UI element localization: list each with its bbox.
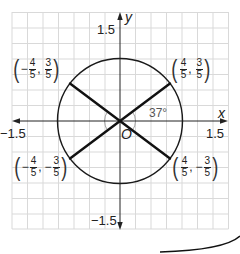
angle-label: 37° bbox=[149, 106, 167, 120]
x-sign: − bbox=[22, 160, 29, 174]
y-fraction: 35 bbox=[45, 58, 53, 80]
point-label-q3: ( − 45 , − 35 ) bbox=[13, 154, 69, 180]
x-axis-label: x bbox=[218, 106, 225, 120]
page-curl bbox=[160, 236, 240, 252]
close-paren: ) bbox=[61, 154, 67, 180]
y-sign: − bbox=[45, 160, 52, 174]
origin-label: O bbox=[121, 127, 132, 141]
coordinate-plane bbox=[0, 0, 240, 254]
open-paren: ( bbox=[13, 56, 19, 82]
close-paren: ) bbox=[204, 56, 210, 82]
y-fraction: 35 bbox=[53, 156, 61, 178]
y-sign: − bbox=[196, 160, 203, 174]
close-paren: ) bbox=[53, 56, 59, 82]
x-fraction: 45 bbox=[29, 58, 37, 80]
arrow-left-icon bbox=[12, 118, 20, 123]
y-fraction: 35 bbox=[204, 156, 212, 178]
x-sign: − bbox=[21, 62, 28, 76]
open-paren: ( bbox=[172, 154, 178, 180]
x-fraction: 45 bbox=[181, 156, 189, 178]
y-max-tick-label: 1.5 bbox=[97, 23, 115, 36]
x-min-tick-label: −1.5 bbox=[0, 127, 26, 140]
open-paren: ( bbox=[14, 154, 20, 180]
point-label-q2: ( − 45 , 35 ) bbox=[12, 56, 61, 82]
point-label-q4: ( 45 , − 35 ) bbox=[171, 154, 220, 180]
y-fraction: 35 bbox=[196, 58, 204, 80]
x-max-tick-label: 1.5 bbox=[206, 127, 224, 140]
close-paren: ) bbox=[212, 154, 218, 180]
x-fraction: 45 bbox=[180, 58, 188, 80]
x-fraction: 45 bbox=[30, 156, 38, 178]
y-min-tick-label: −1.5 bbox=[91, 214, 117, 227]
point-label-q1: ( 45 , 35 ) bbox=[170, 56, 212, 82]
open-paren: ( bbox=[171, 56, 177, 82]
arrow-up-icon bbox=[117, 12, 122, 20]
y-axis-label: y bbox=[125, 10, 132, 24]
